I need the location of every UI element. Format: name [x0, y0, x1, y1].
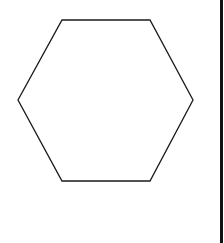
right-border-line: [220, 0, 223, 243]
hexagon-shape: [18, 20, 193, 181]
hexagon-diagram: [0, 0, 224, 243]
diagram-canvas: [0, 0, 224, 243]
